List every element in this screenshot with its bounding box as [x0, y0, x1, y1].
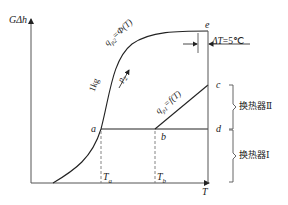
y-axis-label: GΔh — [9, 15, 27, 25]
delta-t-label: ΔT=5℃ — [212, 37, 244, 47]
x-axis-label: T — [202, 187, 208, 197]
point-c-label: c — [216, 80, 220, 90]
point-a-label: a — [91, 124, 96, 134]
brace-exchanger-2 — [229, 85, 236, 129]
brace-exchanger-1 — [229, 130, 236, 182]
exchanger-1-label: 换热器Ⅰ — [239, 151, 270, 160]
curve-q-p2 — [53, 31, 208, 183]
exchanger-2-label: 换热器Ⅱ — [239, 102, 272, 111]
point-d-label: d — [216, 124, 221, 134]
tick-Tb: Tb — [157, 172, 166, 185]
point-e-label: e — [205, 20, 209, 30]
point-b-label: b — [161, 132, 166, 142]
tick-Ta: Ta — [103, 172, 112, 185]
